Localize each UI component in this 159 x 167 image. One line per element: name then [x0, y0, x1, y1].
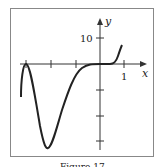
- x-axis-label: x: [142, 67, 149, 80]
- y-axis-label: y: [104, 15, 112, 28]
- y-tick-label-10: 10: [80, 33, 93, 44]
- figure-caption: Figure 17: [60, 162, 105, 167]
- chart: 1 10 x y Figure 17: [0, 0, 159, 167]
- x-tick-label-1: 1: [121, 71, 127, 82]
